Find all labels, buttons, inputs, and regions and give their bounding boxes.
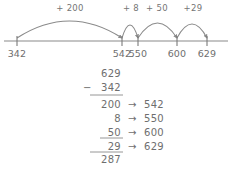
tick-label: 550	[129, 48, 148, 59]
number-line-svg: 342542550600629 + 200+ 8+ 50+29	[0, 0, 234, 66]
subtrahend: 342	[101, 82, 121, 93]
jump-labels-group: + 200+ 8+ 50+29	[56, 3, 202, 13]
jump-label: +29	[184, 3, 203, 13]
jump-label: + 200	[56, 3, 84, 13]
tick-labels-group: 342542550600629	[8, 48, 217, 59]
arrow-icon: →	[128, 99, 137, 110]
partial-addend: 29	[108, 141, 121, 152]
tick-label: 629	[198, 48, 217, 59]
running-total: 542	[144, 99, 164, 110]
running-total: 550	[144, 113, 164, 124]
number-line-diagram: 342542550600629 + 200+ 8+ 50+29	[0, 0, 234, 66]
arrow-icon: →	[128, 113, 137, 124]
calculation-svg: 629 − 342 200→5428→55050→60029→629 287	[0, 64, 234, 176]
partial-steps-group: 200→5428→55050→60029→629	[100, 99, 164, 152]
jump-arcs-group	[17, 21, 207, 38]
minuend: 629	[101, 68, 121, 79]
jump-arc	[122, 25, 138, 38]
running-total: 629	[144, 141, 164, 152]
arrow-icon: →	[128, 127, 137, 138]
tick-label: 600	[168, 48, 187, 59]
minus-operator: −	[83, 82, 92, 93]
running-total: 600	[144, 127, 164, 138]
tick-label: 342	[8, 48, 27, 59]
jump-arc	[138, 23, 177, 38]
jump-label: + 8	[123, 3, 139, 13]
jump-arc	[177, 24, 207, 38]
jump-arc	[17, 21, 122, 38]
partial-addend: 50	[108, 127, 121, 138]
jump-label: + 50	[146, 3, 168, 13]
arrow-icon: →	[128, 141, 137, 152]
answer: 287	[101, 154, 121, 165]
partial-addend: 8	[114, 113, 121, 124]
subtraction-worksheet: 342542550600629 + 200+ 8+ 50+29 629 − 34…	[0, 0, 234, 176]
vertical-calculation: 629 − 342 200→5428→55050→60029→629 287	[0, 64, 234, 176]
partial-addend: 200	[101, 99, 121, 110]
